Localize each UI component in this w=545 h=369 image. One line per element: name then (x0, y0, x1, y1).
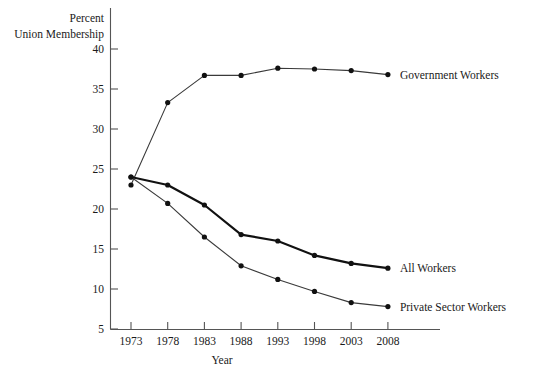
x-tick-label: 1988 (230, 335, 253, 347)
data-point (165, 182, 170, 187)
series-line-government-workers (131, 68, 388, 185)
series-line-all-workers (131, 177, 388, 268)
data-point (128, 174, 133, 179)
data-point (349, 68, 354, 73)
y-tick-label: 25 (93, 163, 105, 175)
data-point (239, 232, 244, 237)
x-tick-label: 2008 (376, 335, 399, 347)
data-point (165, 201, 170, 206)
x-axis-ticks: 19731978198319881993199820032008 (120, 322, 400, 347)
data-point (275, 66, 280, 71)
x-tick-label: 1978 (156, 335, 179, 347)
series-layer (128, 66, 390, 310)
series-line-private-sector-workers (131, 177, 388, 307)
x-axis-title: Year (211, 354, 232, 366)
series-label-all-workers: All Workers (400, 262, 457, 274)
data-point (165, 100, 170, 105)
data-point (275, 238, 280, 243)
x-tick-label: 1983 (193, 335, 216, 347)
series-labels: Government WorkersAll WorkersPrivate Sec… (400, 69, 507, 313)
y-axis-title: Percent Union Membership (14, 12, 105, 41)
data-point (349, 261, 354, 266)
union-membership-chart: Percent Union Membership 510152025303540… (0, 0, 545, 369)
x-tick-label: 2003 (340, 335, 363, 347)
data-point (312, 66, 317, 71)
y-axis-title-line2: Union Membership (14, 28, 104, 41)
series-label-government-workers: Government Workers (400, 69, 499, 81)
x-tick-label: 1998 (303, 335, 326, 347)
data-point (275, 277, 280, 282)
data-point (349, 300, 354, 305)
y-tick-label: 10 (93, 283, 105, 295)
data-point (385, 304, 390, 309)
data-point (385, 266, 390, 271)
y-tick-label: 20 (93, 203, 105, 215)
data-point (128, 182, 133, 187)
y-axis-ticks: 510152025303540 (93, 43, 119, 335)
data-point (312, 289, 317, 294)
data-point (202, 202, 207, 207)
data-point (202, 234, 207, 239)
y-tick-label: 30 (93, 123, 105, 135)
data-point (239, 263, 244, 268)
x-tick-label: 1973 (120, 335, 143, 347)
data-point (239, 73, 244, 78)
data-point (202, 73, 207, 78)
data-point (385, 72, 390, 77)
y-tick-label: 5 (98, 323, 104, 335)
y-tick-label: 40 (93, 43, 105, 55)
chart-svg: Percent Union Membership 510152025303540… (0, 0, 545, 369)
series-label-private-sector-workers: Private Sector Workers (400, 301, 507, 313)
y-tick-label: 15 (93, 243, 105, 255)
y-axis-title-line1: Percent (70, 12, 105, 24)
y-tick-label: 35 (93, 83, 105, 95)
data-point (312, 253, 317, 258)
x-tick-label: 1993 (266, 335, 289, 347)
